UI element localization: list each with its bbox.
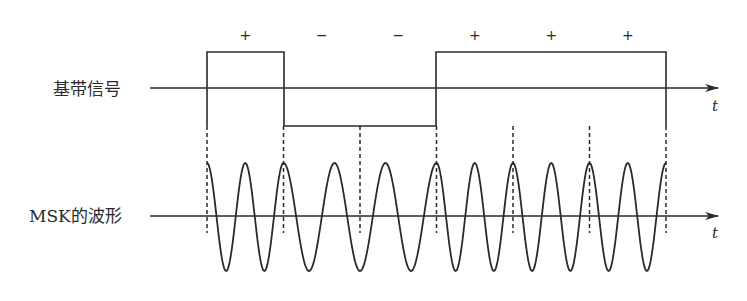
- bit-sign: +: [469, 27, 481, 43]
- msk-waveform-label: MSK的波形: [29, 206, 122, 226]
- bit-signs: +−−+++: [239, 27, 633, 43]
- bit-boundary-dashes: [207, 126, 666, 233]
- msk-diagram: 基带信号 MSK的波形 t t +−−+++: [0, 0, 747, 301]
- bit-sign: +: [622, 27, 634, 43]
- bit-sign: −: [392, 27, 404, 43]
- baseband-t-label: t: [712, 97, 719, 115]
- baseband-label: 基带信号: [53, 79, 121, 99]
- bit-sign: −: [316, 27, 328, 43]
- msk-t-label: t: [712, 224, 719, 242]
- bit-sign: +: [545, 27, 557, 43]
- bit-sign: +: [239, 27, 251, 43]
- baseband-signal: [207, 52, 666, 126]
